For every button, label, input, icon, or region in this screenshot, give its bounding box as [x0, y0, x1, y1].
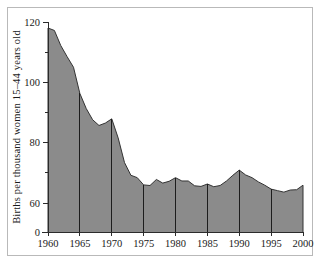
y-axis-title-text: Births per thousand women 15–44 years ol… — [11, 30, 22, 224]
x-tick-label-1970: 1970 — [101, 238, 122, 249]
x-tick-label-1985: 1985 — [197, 238, 218, 249]
figure-container: 196019651970197519801985199019952000 060… — [0, 0, 327, 265]
x-tick-label-1960: 1960 — [38, 238, 59, 249]
x-tick-label-1980: 1980 — [165, 238, 186, 249]
y-axis-title: Births per thousand women 15–44 years ol… — [11, 30, 22, 224]
y-tick-label-60: 60 — [30, 198, 41, 209]
x-axis-tick-labels: 196019651970197519801985199019952000 — [38, 232, 314, 249]
x-tick-label-1975: 1975 — [133, 238, 154, 249]
x-tick-label-1990: 1990 — [229, 238, 250, 249]
y-axis-tick-labels: 06080100120 — [24, 17, 48, 238]
y-tick-label-80: 80 — [30, 137, 41, 148]
x-tick-label-2000: 2000 — [293, 238, 314, 249]
birth-rate-area-chart: 196019651970197519801985199019952000 060… — [0, 0, 327, 265]
y-tick-label-0: 0 — [35, 227, 40, 238]
x-tick-label-1965: 1965 — [69, 238, 90, 249]
y-tick-label-100: 100 — [24, 77, 40, 88]
x-tick-label-1995: 1995 — [261, 238, 282, 249]
y-tick-label-120: 120 — [24, 17, 40, 28]
